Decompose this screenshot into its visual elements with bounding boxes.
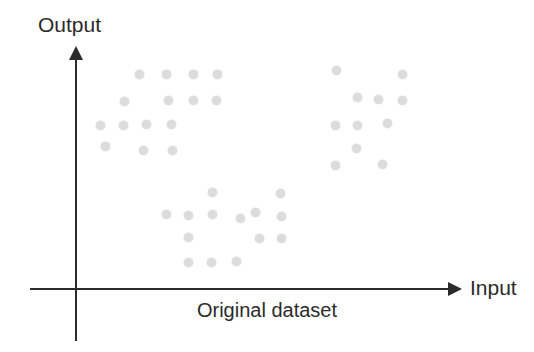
data-point [208,210,217,219]
data-point [331,161,340,170]
data-point [142,120,151,129]
data-point [135,70,144,79]
data-point [119,121,128,130]
data-point [167,120,176,129]
data-point [189,70,198,79]
data-point [232,257,241,266]
data-point [213,70,222,79]
data-point [353,121,362,130]
data-point [374,95,383,104]
data-point [353,93,362,102]
scatter-plot-figure: Output Input Original dataset [0,0,534,352]
data-point [184,233,193,242]
data-point [398,70,407,79]
data-point [251,208,260,217]
data-point [255,234,264,243]
data-point [162,210,171,219]
data-point [331,121,340,130]
data-point [120,97,129,106]
data-point [212,96,221,105]
data-point [189,96,198,105]
data-point [398,96,407,105]
data-point [184,211,193,220]
data-point [162,70,171,79]
data-point [164,96,173,105]
data-point [276,189,285,198]
data-point [383,119,392,128]
data-point [184,258,193,267]
data-point [96,121,105,130]
data-point [352,144,361,153]
data-point [208,188,217,197]
data-point [139,146,148,155]
data-point [168,146,177,155]
data-point [332,66,341,75]
data-point [378,160,387,169]
data-point [277,234,286,243]
figure-caption: Original dataset [0,300,534,320]
data-point [277,212,286,221]
data-point [101,142,110,151]
data-point [207,258,216,267]
data-point [236,214,245,223]
